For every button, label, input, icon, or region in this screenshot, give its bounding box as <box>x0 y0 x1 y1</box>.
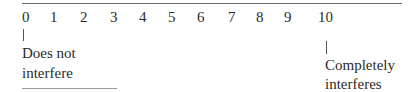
scale-number-6: 6 <box>197 8 205 26</box>
scale-number-0: 0 <box>22 8 30 26</box>
min-anchor-label-line2: interfere <box>22 63 73 83</box>
min-anchor-tick <box>23 29 24 41</box>
scale-number-5: 5 <box>168 8 176 26</box>
min-anchor-label-line1: Does not <box>22 43 76 63</box>
scale-number-10: 10 <box>318 8 333 26</box>
scale-number-4: 4 <box>139 8 147 26</box>
scale-number-2: 2 <box>80 8 88 26</box>
scale-number-9: 9 <box>284 8 292 26</box>
max-anchor-tick <box>326 41 327 54</box>
scale-number-7: 7 <box>228 8 236 26</box>
scale-number-1: 1 <box>50 8 58 26</box>
scale-number-3: 3 <box>110 8 118 26</box>
top-rule <box>22 3 402 4</box>
scale-number-8: 8 <box>256 8 264 26</box>
max-anchor-label-line1: Completely <box>325 55 395 75</box>
max-anchor-label-line2: interferes <box>325 74 382 92</box>
bottom-rule <box>22 88 117 89</box>
